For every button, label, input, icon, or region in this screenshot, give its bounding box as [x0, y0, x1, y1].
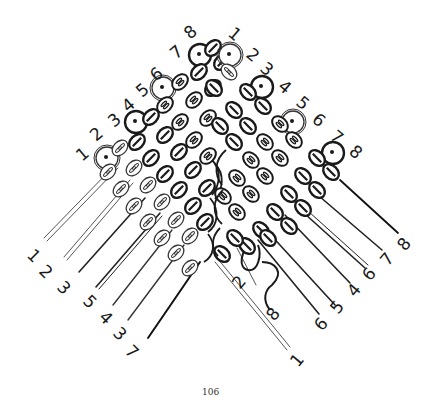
page-number: 106 [202, 387, 219, 397]
svg-text:5: 5 [79, 291, 101, 313]
svg-text:6: 6 [358, 263, 380, 284]
svg-text:2: 2 [86, 123, 107, 145]
svg-text:8: 8 [180, 21, 201, 43]
svg-text:3: 3 [104, 109, 125, 131]
svg-text:3: 3 [53, 277, 75, 299]
svg-text:4: 4 [343, 279, 365, 300]
svg-text:2: 2 [242, 44, 263, 66]
svg-text:4: 4 [274, 76, 295, 98]
svg-text:7: 7 [121, 341, 143, 363]
svg-text:6: 6 [308, 109, 329, 131]
svg-text:8: 8 [393, 233, 415, 254]
bottom-labels-left: 1 2 3 5 4 3 7 [23, 245, 143, 363]
bottom-center-label: 1 [286, 349, 308, 370]
svg-text:1: 1 [23, 245, 45, 267]
svg-text:2: 2 [228, 271, 250, 292]
svg-text:3: 3 [109, 323, 131, 345]
svg-text:7: 7 [166, 41, 187, 63]
svg-text:7: 7 [376, 248, 398, 269]
svg-text:6: 6 [310, 313, 332, 334]
svg-text:8: 8 [345, 141, 366, 163]
svg-text:8: 8 [262, 303, 284, 324]
svg-text:5: 5 [326, 296, 348, 317]
right-wing-beads [203, 42, 344, 265]
svg-text:2: 2 [35, 261, 57, 283]
bead-diagram: 1 2 3 4 5 6 7 8 1 2 3 4 5 6 7 8 1 2 3 5 … [0, 0, 437, 410]
svg-text:1: 1 [224, 23, 245, 45]
svg-text:1: 1 [72, 143, 93, 165]
svg-text:4: 4 [95, 307, 117, 329]
